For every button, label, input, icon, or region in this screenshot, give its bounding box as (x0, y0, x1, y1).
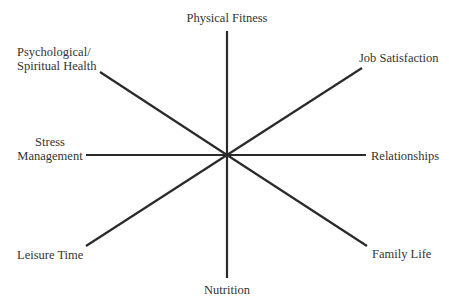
label-psych-line1: Psychological/ (17, 45, 97, 59)
spoke-leisure-time (86, 155, 227, 246)
label-stress-line2: Management (14, 149, 86, 163)
label-stress-management: Stress Management (14, 135, 86, 163)
spokes (86, 31, 367, 278)
label-psychological-spiritual-health: Psychological/ Spiritual Health (17, 45, 97, 73)
label-physical-fitness: Physical Fitness (167, 11, 287, 25)
spoke-family-life (227, 155, 367, 246)
label-nutrition: Nutrition (187, 283, 267, 297)
label-family-life: Family Life (372, 247, 431, 261)
label-leisure-time: Leisure Time (17, 248, 83, 262)
label-job-satisfaction: Job Satisfaction (359, 51, 439, 65)
label-relationships: Relationships (371, 149, 439, 163)
spoke-psychological-spiritual-health (100, 72, 227, 155)
spoke-job-satisfaction (227, 68, 362, 155)
label-stress-line1: Stress (14, 135, 86, 149)
label-psych-line2: Spiritual Health (17, 59, 97, 73)
